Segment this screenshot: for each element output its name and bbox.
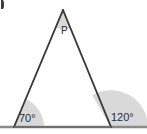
geometry-figure: P 70° 120°: [0, 0, 147, 134]
clipped-glyph-artifact: [1, 0, 4, 9]
right-base-exterior-angle-label: 120°: [111, 112, 134, 123]
triangle-right-side: [63, 10, 111, 127]
apex-angle-label: P: [61, 26, 68, 36]
triangle-left-side: [14, 10, 63, 127]
left-base-angle-label: 70°: [19, 113, 36, 124]
